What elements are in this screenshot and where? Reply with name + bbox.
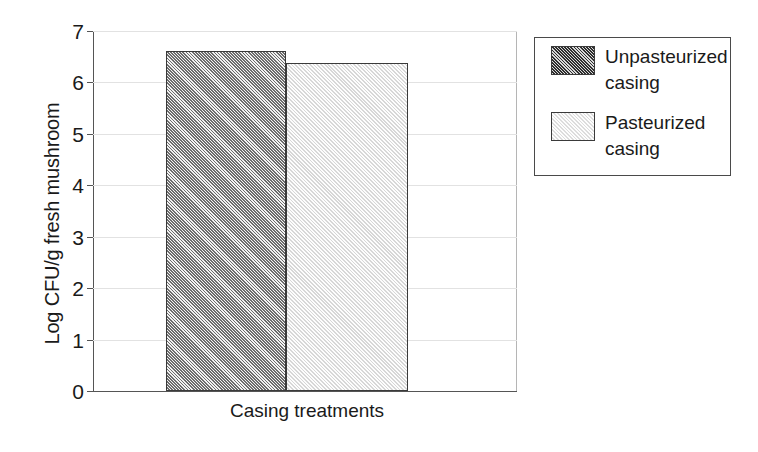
y-tick-label: 4: [72, 175, 84, 196]
legend-label-unpasteurized-casing: Unpasteurized casing: [605, 44, 727, 96]
legend-swatch-pasteurized-icon: [551, 112, 595, 141]
y-tick-mark: [87, 134, 93, 135]
x-axis-title: Casing treatments: [186, 400, 428, 422]
legend-item-pasteurized-casing: Pasteurized casing: [551, 110, 705, 162]
legend-label-line1: Unpasteurized: [605, 44, 727, 70]
y-tick-mark: [87, 288, 93, 289]
gridline: [93, 31, 517, 32]
y-tick-label: 6: [72, 72, 84, 93]
y-tick-mark: [87, 237, 93, 238]
y-tick-mark: [87, 391, 93, 392]
legend-item-unpasteurized-casing: Unpasteurized casing: [551, 44, 727, 96]
y-tick-label: 5: [72, 123, 84, 144]
y-tick-mark: [87, 340, 93, 341]
legend-swatch-unpasteurized-icon: [551, 46, 595, 75]
bar-pasteurized-casing: [286, 63, 408, 391]
plot-area: 76543210: [93, 31, 517, 392]
legend-label-line1: Pasteurized: [605, 110, 705, 136]
y-axis-line: [93, 31, 94, 392]
y-tick-mark: [87, 82, 93, 83]
legend-label-pasteurized-casing: Pasteurized casing: [605, 110, 705, 162]
y-tick-label: 7: [72, 21, 84, 42]
y-tick-label: 3: [72, 226, 84, 247]
x-axis-line: [93, 391, 517, 392]
bar-unpasteurized-casing: [166, 51, 286, 391]
y-tick-mark: [87, 185, 93, 186]
legend-label-line2: casing: [605, 136, 705, 162]
y-tick-label: 1: [72, 329, 84, 350]
legend-label-line2: casing: [605, 70, 727, 96]
y-tick-label: 0: [72, 381, 84, 402]
y-tick-mark: [87, 31, 93, 32]
y-tick-label: 2: [72, 278, 84, 299]
y-axis-title: Log CFU/g fresh mushroom: [41, 54, 64, 394]
bar-chart-figure: Log CFU/g fresh mushroom 76543210 Casing…: [0, 0, 758, 452]
legend: Unpasteurized casing Pasteurized casing: [534, 37, 731, 176]
plot-frame-right: [516, 31, 517, 392]
